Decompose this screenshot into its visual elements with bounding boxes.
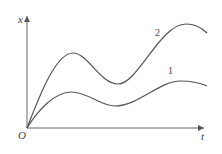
diagram: x t O 2 1 <box>0 0 222 154</box>
y-axis-label: x <box>17 13 23 25</box>
curve-2 <box>27 24 207 128</box>
curve-1-label: 1 <box>168 65 173 76</box>
curve-2-label: 2 <box>155 27 160 38</box>
x-axis-label: t <box>201 130 205 142</box>
curve-1 <box>27 81 207 128</box>
origin-label: O <box>18 129 26 141</box>
